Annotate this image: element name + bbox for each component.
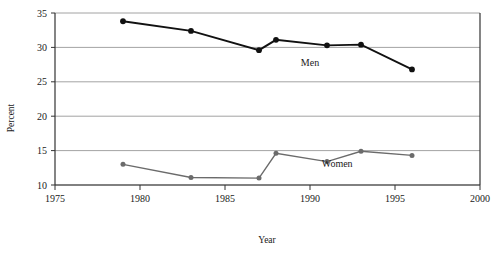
data-point-women (257, 176, 262, 181)
y-tick-label: 20 (37, 111, 47, 122)
x-axis (55, 13, 480, 190)
series-annotations: MenWomen (301, 57, 353, 169)
series-label-men: Men (301, 57, 319, 68)
x-tick-labels: 197519801985199019952000 (45, 193, 490, 204)
y-tick-label: 35 (37, 8, 47, 19)
data-point-men (120, 18, 126, 24)
gridlines (55, 13, 480, 185)
y-axis-title: Percent (6, 103, 16, 132)
y-tick-label: 15 (37, 145, 47, 156)
chart-canvas: 101520253035 197519801985199019952000 Me… (0, 0, 500, 260)
data-point-men (273, 37, 279, 43)
data-point-men (358, 42, 364, 48)
line-chart: 101520253035 197519801985199019952000 Me… (0, 0, 500, 260)
series-line-men (123, 21, 412, 69)
y-tick-label: 25 (37, 76, 47, 87)
x-tick-label: 1990 (300, 193, 320, 204)
x-tick-label: 1980 (130, 193, 150, 204)
data-point-men (188, 28, 194, 34)
x-tick-label: 1985 (215, 193, 235, 204)
series-line-women (123, 151, 412, 178)
data-point-women (274, 151, 279, 156)
x-axis-title: Year (258, 235, 276, 245)
y-tick-label: 30 (37, 42, 47, 53)
series-lines (123, 21, 412, 178)
data-point-men (324, 42, 330, 48)
y-axis (51, 13, 55, 185)
data-point-women (121, 162, 126, 167)
data-point-women (189, 175, 194, 180)
data-point-women (410, 153, 415, 158)
x-tick-label: 1995 (385, 193, 405, 204)
series-label-women: Women (322, 158, 353, 169)
x-tick-label: 2000 (470, 193, 490, 204)
data-point-women (359, 149, 364, 154)
y-tick-label: 10 (37, 180, 47, 191)
data-point-men (409, 67, 415, 73)
series-markers (120, 18, 415, 180)
data-point-men (256, 47, 262, 53)
x-tick-label: 1975 (45, 193, 65, 204)
y-tick-labels: 101520253035 (37, 8, 47, 191)
